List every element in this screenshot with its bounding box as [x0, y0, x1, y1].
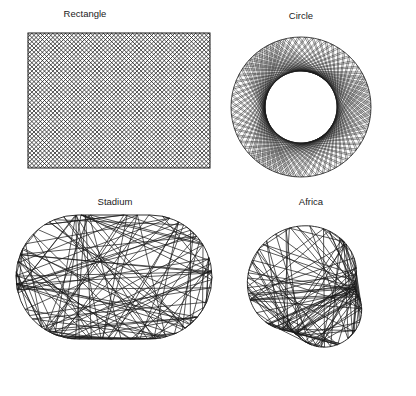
panel-title: Africa [286, 196, 336, 207]
rectangle-trajectory [28, 33, 210, 168]
panel-title: Rectangle [57, 8, 113, 19]
panel-title: Stadium [88, 196, 142, 207]
stadium-trajectory [16, 215, 212, 339]
africa-trajectory [247, 226, 361, 347]
panel-title: Circle [276, 10, 326, 21]
billiard-trajectories-canvas [0, 0, 416, 396]
circle-trajectory [231, 37, 371, 177]
figure: Rectangle Circle Stadium Africa [0, 0, 416, 396]
